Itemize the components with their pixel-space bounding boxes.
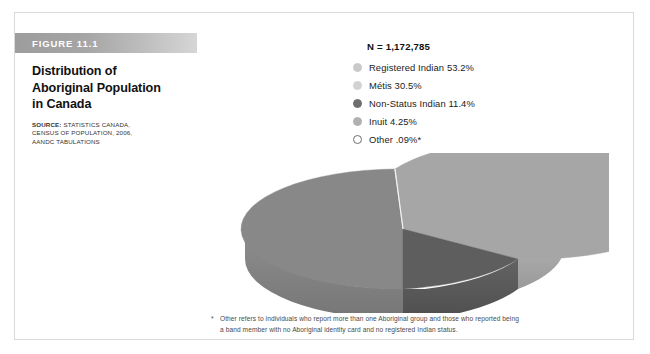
figure-title-line-2: Aboriginal Population <box>32 80 197 97</box>
legend-label-non-status-indian: Non-Status Indian 11.4% <box>369 98 475 109</box>
legend-item-registered-indian: Registered Indian 53.2% <box>345 59 575 75</box>
source-line-2: CENSUS OF POPULATION, 2006, <box>32 129 202 137</box>
figure-title: Distribution of Aboriginal Population in… <box>32 63 197 113</box>
figure-frame: FIGURE 11.1 Distribution of Aboriginal P… <box>14 12 634 340</box>
chart-legend: N = 1,172,785 Registered Indian 53.2% Mé… <box>345 41 575 149</box>
legend-swatch-other <box>353 135 362 144</box>
source-line-3: AANDC TABULATIONS <box>32 138 202 146</box>
figure-number-label: FIGURE 11.1 <box>15 38 98 49</box>
legend-label-inuit: Inuit 4.25% <box>369 116 417 127</box>
figure-label-bar: FIGURE 11.1 <box>15 33 197 53</box>
figure-title-line-3: in Canada <box>32 96 197 113</box>
legend-swatch-registered-indian <box>353 63 362 72</box>
legend-swatch-metis <box>353 81 362 90</box>
legend-item-other: Other .09%* <box>345 131 575 147</box>
source-label: SOURCE: <box>32 121 62 128</box>
footnote-marker: * <box>211 314 214 325</box>
figure-caption-column: FIGURE 11.1 Distribution of Aboriginal P… <box>15 13 211 339</box>
figure-source-note: SOURCE: STATISTICS CANADA, CENSUS OF POP… <box>32 121 202 146</box>
footnote-body: Other refers to individuals who report m… <box>211 314 623 335</box>
legend-item-inuit: Inuit 4.25% <box>345 113 575 129</box>
footnote-line-2: a band member with no Aboriginal identit… <box>220 325 623 336</box>
legend-label-other: Other .09%* <box>369 134 421 145</box>
footnote-line-1: Other refers to individuals who report m… <box>220 314 623 325</box>
pie-chart-svg <box>229 153 609 313</box>
chart-footnote: * Other refers to individuals who report… <box>211 314 623 335</box>
source-line-1: STATISTICS CANADA, <box>62 121 131 128</box>
legend-item-non-status-indian: Non-Status Indian 11.4% <box>345 95 575 111</box>
pie-chart <box>229 153 609 313</box>
legend-total-n: N = 1,172,785 <box>367 41 575 52</box>
figure-title-line-1: Distribution of <box>32 63 197 80</box>
legend-swatch-inuit <box>353 117 362 126</box>
legend-item-metis: Métis 30.5% <box>345 77 575 93</box>
legend-swatch-non-status-indian <box>353 99 362 108</box>
legend-label-registered-indian: Registered Indian 53.2% <box>369 62 474 73</box>
legend-label-metis: Métis 30.5% <box>369 80 422 91</box>
